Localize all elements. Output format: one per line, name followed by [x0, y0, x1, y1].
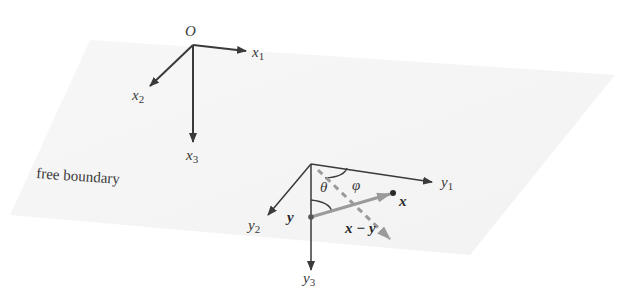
point-y-dot: [308, 214, 314, 220]
point-x-label: x: [398, 193, 407, 209]
phi-label: φ: [352, 177, 360, 193]
point-y-label: y: [285, 209, 294, 225]
diagram-svg: O x1 x2 x3 free boundary y1 y2 y3 φ θ y …: [0, 0, 643, 289]
diagram-canvas: O x1 x2 x3 free boundary y1 y2 y3 φ θ y …: [0, 0, 643, 289]
x1-label: x1: [251, 44, 264, 62]
y3-label: y3: [301, 270, 316, 288]
origin-label: O: [185, 23, 196, 39]
free-boundary-plane: [10, 40, 615, 255]
vector-label: x − y: [344, 220, 376, 236]
point-x-dot: [390, 190, 396, 196]
theta-label: θ: [320, 179, 328, 195]
